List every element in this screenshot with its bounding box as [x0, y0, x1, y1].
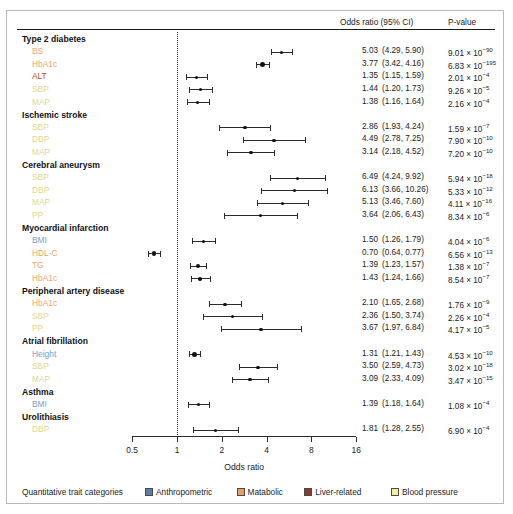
- trait-label-dbp: DBP: [32, 185, 49, 195]
- ci-cap-high: [292, 49, 293, 55]
- ci-cap-high: [206, 263, 207, 269]
- column-header-p-value: P-value: [448, 17, 476, 27]
- ci-cap-high: [327, 188, 328, 194]
- ci-cap-high: [308, 200, 309, 206]
- trait-label-bmi: BMI: [32, 235, 47, 245]
- ci-cap-low: [271, 49, 272, 55]
- ci-cap-high: [268, 377, 269, 383]
- confidence-interval-value: (1.28, 2.55): [382, 424, 424, 433]
- ci-cap-low: [270, 175, 271, 181]
- point-estimate: [152, 251, 157, 256]
- ci-cap-high: [305, 137, 306, 143]
- odds-ratio-value: 6.13: [344, 185, 378, 194]
- x-axis-line: [132, 436, 356, 437]
- ci-cap-high: [209, 99, 210, 105]
- reference-line: [177, 32, 178, 439]
- trait-label-sbp: SBP: [32, 84, 49, 94]
- group-label-cerebral-aneurysm: Cerebral aneurysm: [22, 160, 100, 170]
- odds-ratio-value: 1.44: [344, 84, 378, 93]
- p-value: 5.33 × 10−12: [448, 185, 493, 197]
- p-value: 2.26 × 10−4: [448, 311, 489, 323]
- ci-cap-low: [239, 364, 240, 370]
- odds-ratio-value: 3.14: [344, 147, 378, 156]
- trait-label-sbp: SBP: [32, 361, 49, 371]
- odds-ratio-value: 3.50: [344, 361, 378, 370]
- p-value: 1.08 × 10−4: [448, 399, 489, 411]
- confidence-interval-value: (3.46, 7.60): [382, 197, 424, 206]
- ci-cap-high: [238, 427, 239, 433]
- confidence-interval-value: (1.50, 3.74): [382, 311, 424, 320]
- trait-label-alt: ALT: [32, 71, 47, 81]
- point-estimate: [259, 328, 262, 331]
- odds-ratio-value: 1.39: [344, 260, 378, 269]
- ci-cap-low: [186, 74, 187, 80]
- p-value: 4.17 × 10−5: [448, 323, 489, 335]
- ci-cap-low: [189, 87, 190, 93]
- confidence-interval-value: (2.33, 4.09): [382, 374, 424, 383]
- trait-label-sbp: SBP: [32, 122, 49, 132]
- ci-cap-low: [203, 314, 204, 320]
- point-estimate: [280, 51, 283, 54]
- confidence-interval-value: (1.24, 1.66): [382, 273, 424, 282]
- trait-label-dbp: DBP: [32, 134, 49, 144]
- group-label-type-2-diabetes: Type 2 diabetes: [22, 34, 86, 44]
- group-label-ischemic-stroke: Ischemic stroke: [22, 110, 87, 120]
- confidence-interval-value: (1.21, 1.43): [382, 349, 424, 358]
- confidence-interval-value: (1.97, 6.84): [382, 323, 424, 332]
- p-value: 9.26 × 10−5: [448, 84, 489, 96]
- trait-label-tg: TG: [32, 260, 44, 270]
- trait-label-map: MAP: [32, 374, 50, 384]
- ci-cap-low: [221, 326, 222, 332]
- point-estimate: [198, 277, 201, 280]
- p-value: 4.04 × 10−6: [448, 235, 489, 247]
- ci-cap-high: [207, 74, 208, 80]
- p-value: 8.54 × 10−7: [448, 273, 489, 285]
- odds-ratio-value: 1.31: [344, 349, 378, 358]
- confidence-interval-value: (1.26, 1.79): [382, 235, 424, 244]
- ci-cap-low: [257, 200, 258, 206]
- ci-cap-high: [277, 364, 278, 370]
- ci-cap-high: [209, 402, 210, 408]
- p-value: 6.90 × 10−4: [448, 424, 489, 436]
- p-value: 4.11 × 10−16: [448, 197, 492, 209]
- p-value: 5.94 × 10−18: [448, 172, 493, 184]
- x-axis-tick: [132, 437, 133, 442]
- odds-ratio-value: 1.39: [344, 399, 378, 408]
- odds-ratio-value: 1.43: [344, 273, 378, 282]
- point-estimate: [256, 366, 259, 369]
- x-axis-tick-label: 16: [340, 445, 372, 455]
- x-axis-tick: [311, 437, 312, 442]
- ci-cap-high: [241, 301, 242, 307]
- x-axis-tick-label: 1: [161, 445, 193, 455]
- group-label-urolithiasis: Urolithiasis: [22, 412, 69, 422]
- x-axis-tick: [222, 437, 223, 442]
- ci-cap-low: [256, 62, 257, 68]
- ci-cap-low: [261, 188, 262, 194]
- group-label-atrial-fibrillation: Atrial fibrillation: [22, 336, 88, 346]
- p-value: 1.38 × 10−7: [448, 260, 489, 272]
- confidence-interval-value: (4.29, 5.90): [382, 46, 424, 55]
- header-rule: [17, 29, 495, 30]
- point-estimate: [199, 88, 202, 91]
- trait-label-bmi: BMI: [32, 399, 47, 409]
- point-estimate: [196, 101, 199, 104]
- ci-cap-high: [212, 87, 213, 93]
- ci-cap-high: [210, 276, 211, 282]
- point-estimate: [259, 214, 262, 217]
- ci-cap-high: [269, 62, 270, 68]
- ci-cap-low: [193, 427, 194, 433]
- x-axis-tick: [356, 437, 357, 442]
- ci-cap-high: [297, 213, 298, 219]
- odds-ratio-value: 1.81: [344, 424, 378, 433]
- x-axis-tick: [267, 437, 268, 442]
- trait-label-hba1c: HbA1c: [32, 59, 57, 69]
- legend-title: Quantitative trait categories: [22, 487, 123, 497]
- odds-ratio-value: 6.49: [344, 172, 378, 181]
- x-axis-tick-label: 0.5: [116, 445, 148, 455]
- point-estimate: [272, 139, 275, 142]
- trait-label-dbp: DBP: [32, 424, 49, 434]
- confidence-interval-value: (1.23, 1.57): [382, 260, 424, 269]
- odds-ratio-value: 0.70: [344, 248, 378, 257]
- forest-plot: Odds ratio (95% CI)P-valueType 2 diabete…: [0, 0, 513, 514]
- p-value: 7.20 × 10−10: [448, 147, 493, 159]
